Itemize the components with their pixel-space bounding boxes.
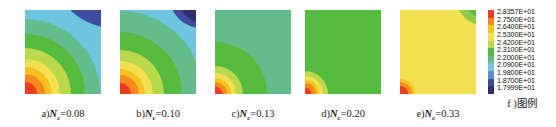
colorbar-swatch	[488, 25, 494, 33]
colorbar-legend: 2.8357E+012.7500E+012.6400E+012.5300E+01…	[488, 10, 554, 94]
panel-e-prefix: e)	[416, 108, 424, 119]
panel-a-prefix: a)	[41, 108, 49, 119]
contour-figure: a)Nc=0.08 b)Nc=0.10 c)N	[0, 0, 556, 127]
panel-b: b)Nc=0.10	[120, 10, 196, 94]
panel-d-prefix: d)	[321, 108, 330, 119]
panel-b-prefix: b)	[136, 108, 145, 119]
legend-caption: f )图例	[488, 98, 556, 110]
panel-c-prefix: c)	[231, 108, 239, 119]
contour-band-navy-outer	[56, 10, 101, 28]
panel-b-value: 0.10	[162, 108, 180, 119]
panel-a: a)Nc=0.08	[25, 10, 101, 94]
colorbar-swatch	[488, 41, 494, 49]
colorbar-swatch	[488, 33, 494, 41]
colorbar-swatch	[488, 48, 494, 56]
legend-caption-text: 图例	[517, 98, 537, 109]
panel-e-caption: e)Nc=0.33	[378, 108, 498, 124]
colorbar-swatch	[488, 10, 494, 18]
panel-e: e)Nc=0.33	[400, 10, 476, 94]
colorbar-swatch	[488, 71, 494, 79]
panel-c: c)Nc=0.13	[215, 10, 291, 94]
colorbar-swatch	[488, 79, 494, 87]
panel-e-value: 0.33	[441, 108, 459, 119]
colorbar-strip	[488, 10, 494, 94]
panel-d-value: 0.20	[347, 108, 365, 119]
panel-d: d)Nc=0.20	[305, 10, 381, 94]
colorbar-swatch	[488, 86, 494, 94]
panel-c-value: 0.13	[256, 108, 274, 119]
panel-c-canvas	[215, 10, 291, 94]
panel-b-canvas	[120, 10, 196, 94]
legend-caption-prefix: f )	[507, 98, 517, 109]
colorbar-swatch	[488, 18, 494, 26]
panel-a-canvas	[25, 10, 101, 94]
panel-d-canvas	[305, 10, 381, 94]
colorbar-tick-label: 1.7999E+01	[497, 84, 555, 92]
colorbar-tick-labels: 2.8357E+012.7500E+012.6400E+012.5300E+01…	[497, 8, 555, 96]
colorbar-swatch	[488, 56, 494, 64]
panel-a-value: 0.08	[66, 108, 84, 119]
colorbar-swatch	[488, 63, 494, 71]
panel-e-canvas	[400, 10, 476, 94]
